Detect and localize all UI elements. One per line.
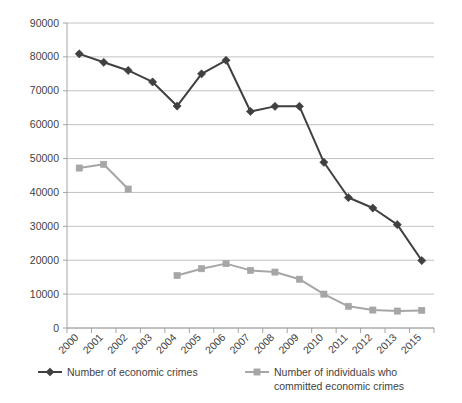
data-point-marker [272, 269, 278, 275]
data-point-marker [76, 165, 82, 171]
x-tick-label: 2013 [374, 331, 399, 356]
y-tick-label: 0 [53, 322, 59, 334]
series-line [177, 264, 422, 311]
x-axis [67, 23, 434, 333]
y-tick-label: 40000 [30, 186, 59, 198]
data-point-marker [125, 186, 131, 192]
series-1 [75, 50, 426, 265]
chart-legend: Number of economic crimesNumber of indiv… [38, 366, 404, 392]
series-line [79, 54, 422, 261]
data-point-marker [345, 303, 351, 309]
x-tick-label: 2015 [398, 331, 423, 356]
x-tick-label: 2001 [80, 331, 105, 356]
x-tick-label: 2011 [325, 331, 350, 356]
data-point-marker [246, 107, 254, 115]
y-axis-tick-labels: 0100002000030000400005000060000700008000… [30, 17, 59, 334]
data-point-marker [247, 267, 253, 273]
x-tick-label: 2009 [276, 331, 301, 356]
x-tick-label: 2003 [129, 331, 154, 356]
x-tick-label: 2000 [56, 331, 81, 356]
x-axis-tick-labels: 2000200120022003200420052006200720082009… [56, 331, 424, 356]
y-tick-label: 80000 [30, 50, 59, 62]
data-point-marker [124, 66, 132, 74]
y-tick-label: 70000 [30, 84, 59, 96]
data-point-marker [100, 58, 108, 66]
y-tick-label: 90000 [30, 17, 59, 29]
legend-label: Number of individuals who [274, 366, 397, 378]
y-tick-label: 50000 [30, 152, 59, 164]
data-point-marker [174, 272, 180, 278]
data-point-marker [419, 307, 425, 313]
data-point-marker [223, 261, 229, 267]
series-line [79, 164, 128, 189]
data-point-marker [222, 56, 230, 64]
x-tick-label: 2002 [105, 331, 130, 356]
x-tick-label: 2005 [178, 331, 203, 356]
x-tick-label: 2007 [227, 331, 252, 356]
legend-label: Number of economic crimes [67, 366, 198, 378]
legend-item-2[interactable]: Number of individuals whocommitted econo… [245, 366, 404, 392]
x-tick-label: 2008 [251, 331, 276, 356]
data-point-marker [198, 266, 204, 272]
legend-item-1[interactable]: Number of economic crimes [38, 366, 198, 378]
legend-label-line2: committed economic crimes [274, 380, 404, 392]
data-series-group [75, 50, 426, 314]
gridlines-group [63, 23, 434, 328]
data-point-marker [101, 161, 107, 167]
data-point-marker [321, 291, 327, 297]
x-tick-label: 2006 [202, 331, 227, 356]
x-tick-label: 2012 [349, 331, 374, 356]
data-point-marker [254, 369, 260, 375]
economic-crimes-line-chart: 0100002000030000400005000060000700008000… [0, 0, 462, 403]
data-point-marker [394, 308, 400, 314]
data-point-marker [271, 102, 279, 110]
y-tick-label: 60000 [30, 118, 59, 130]
data-point-marker [370, 307, 376, 313]
y-tick-label: 30000 [30, 220, 59, 232]
data-point-marker [46, 368, 54, 376]
chart-canvas: 0100002000030000400005000060000700008000… [0, 0, 462, 403]
x-tick-label: 2004 [154, 331, 179, 356]
data-point-marker [295, 102, 303, 110]
x-tick-label: 2010 [300, 331, 325, 356]
y-tick-label: 10000 [30, 288, 59, 300]
data-point-marker [296, 276, 302, 282]
y-tick-label: 20000 [30, 254, 59, 266]
series-2 [76, 161, 425, 314]
